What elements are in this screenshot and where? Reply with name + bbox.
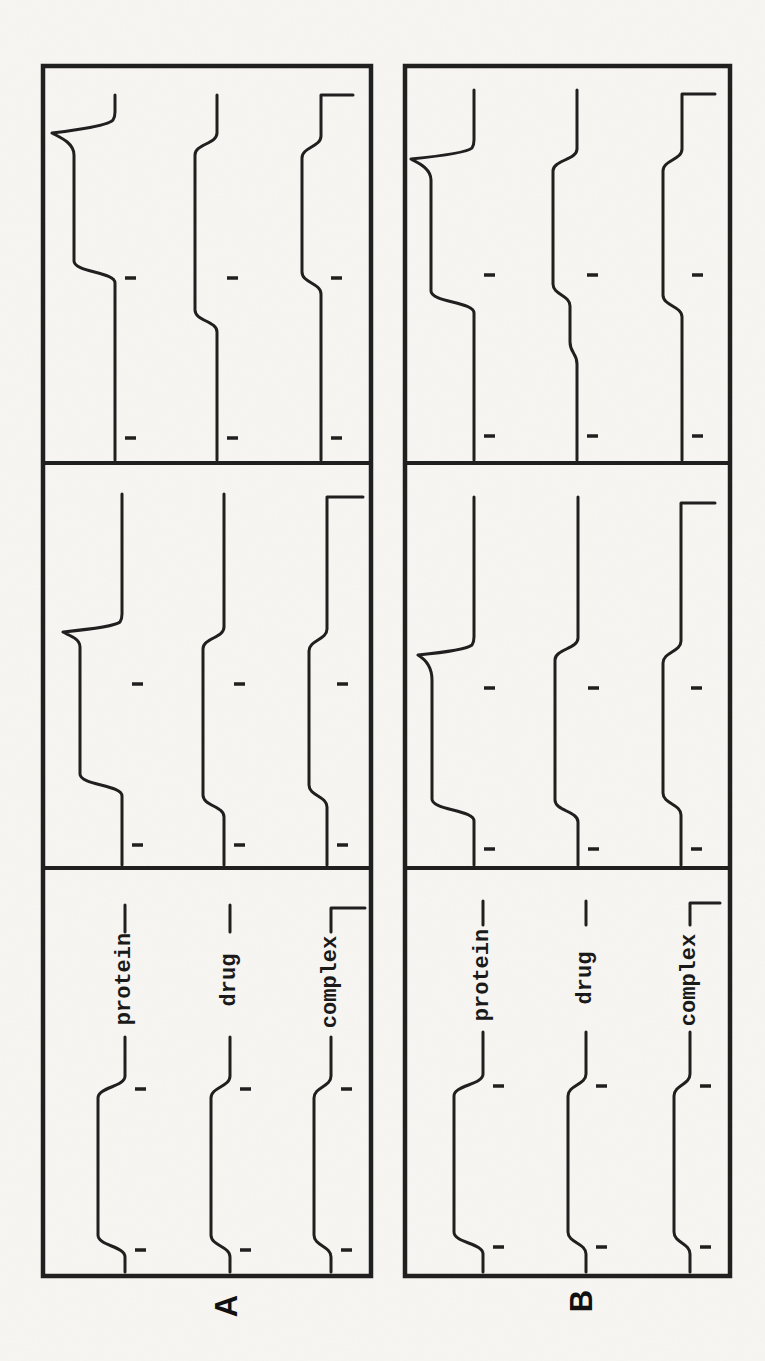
panel-a-label: A	[205, 1284, 249, 1328]
panel-b-label: B	[560, 1279, 604, 1323]
figure-canvas: proteindrugcomplexproteindrugcomplex	[0, 0, 765, 1361]
paper-grain-overlay	[0, 0, 765, 1361]
scanned-figure-page: proteindrugcomplexproteindrugcomplex A B	[0, 0, 765, 1361]
